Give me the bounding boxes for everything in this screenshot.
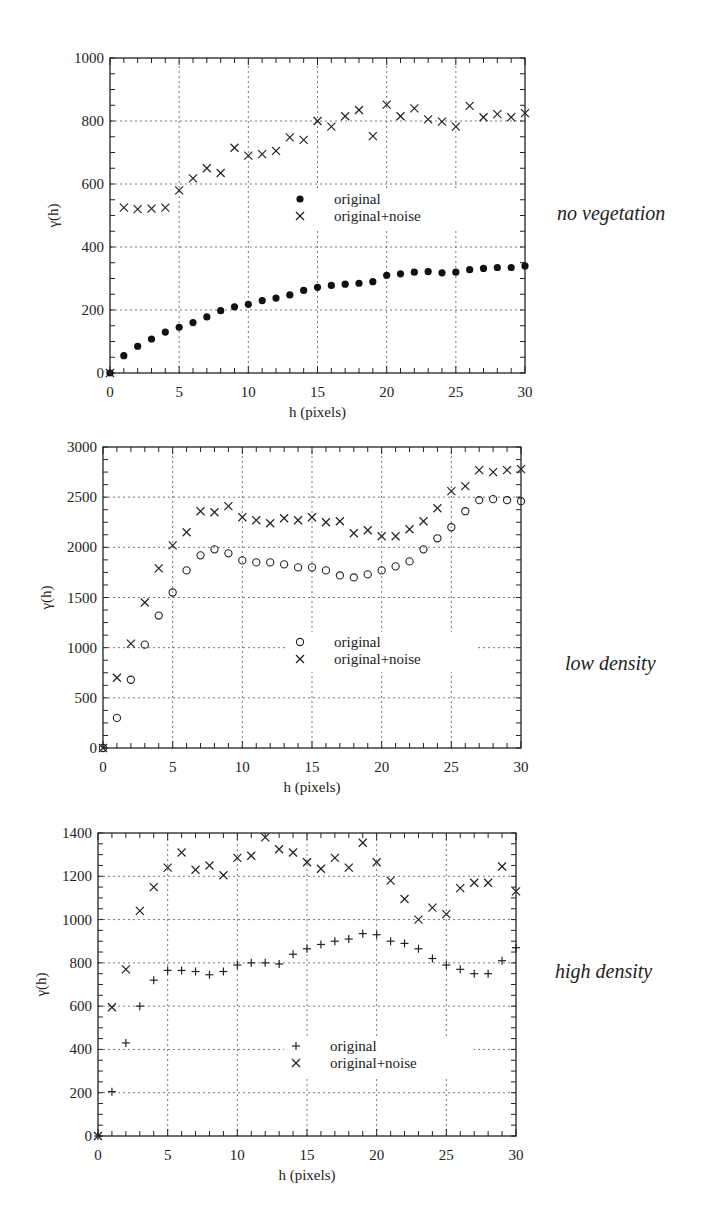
panel-label-no-vegetation: no vegetation [557, 202, 665, 225]
svg-text:original: original [330, 1038, 377, 1054]
svg-text:2500: 2500 [67, 489, 97, 505]
svg-text:1000: 1000 [74, 50, 104, 66]
svg-text:30: 30 [509, 1147, 524, 1163]
svg-text:5: 5 [169, 759, 177, 775]
svg-text:original+noise: original+noise [334, 208, 421, 224]
svg-text:10: 10 [230, 1147, 245, 1163]
tick-labels: 0510152025300200400600800100012001400 [62, 825, 524, 1163]
svg-text:400: 400 [70, 1041, 93, 1057]
svg-text:1000: 1000 [67, 640, 97, 656]
svg-text:15: 15 [310, 384, 325, 400]
x-axis-label: h (pixels) [283, 779, 340, 796]
panel-low-density: 051015202530050010001500200025003000h (p… [0, 400, 718, 810]
series-original [106, 262, 528, 376]
svg-text:1200: 1200 [62, 868, 92, 884]
svg-text:20: 20 [374, 759, 389, 775]
panel-high-density: 0510152025300200400600800100012001400h (… [0, 810, 718, 1229]
svg-text:0: 0 [106, 384, 114, 400]
svg-text:0: 0 [99, 759, 107, 775]
series-original-noise [99, 465, 525, 752]
svg-text:15: 15 [300, 1147, 315, 1163]
svg-text:200: 200 [82, 302, 105, 318]
svg-text:original+noise: original+noise [330, 1055, 417, 1071]
svg-text:5: 5 [164, 1147, 172, 1163]
svg-text:0: 0 [94, 1147, 102, 1163]
legend: originaloriginal+noise [288, 189, 478, 229]
svg-text:30: 30 [518, 384, 533, 400]
svg-text:500: 500 [75, 690, 98, 706]
svg-text:600: 600 [82, 176, 105, 192]
svg-text:20: 20 [369, 1147, 384, 1163]
svg-text:0: 0 [90, 740, 98, 756]
svg-text:600: 600 [70, 998, 93, 1014]
svg-text:1000: 1000 [62, 912, 92, 928]
svg-text:800: 800 [70, 955, 93, 971]
svg-text:10: 10 [241, 384, 256, 400]
svg-text:800: 800 [82, 113, 105, 129]
panel-no-vegetation: 05101520253002004006008001000h (pixels)γ… [0, 0, 718, 400]
y-axis-label: γ(h) [45, 203, 62, 228]
svg-text:30: 30 [514, 759, 529, 775]
tick-labels: 051015202530050010001500200025003000 [67, 439, 529, 775]
svg-text:5: 5 [175, 384, 183, 400]
svg-text:200: 200 [70, 1085, 93, 1101]
svg-text:0: 0 [97, 365, 105, 381]
legend: originaloriginal+noise [288, 632, 478, 672]
svg-text:10: 10 [235, 759, 250, 775]
y-axis-label: γ(h) [33, 972, 50, 997]
svg-text:2000: 2000 [67, 539, 97, 555]
svg-text:original: original [334, 634, 381, 650]
svg-text:original+noise: original+noise [334, 651, 421, 667]
x-axis-label: h (pixels) [278, 1167, 335, 1184]
chart-high-density: 0510152025300200400600800100012001400h (… [0, 810, 718, 1229]
grid-lines [98, 833, 516, 1136]
svg-text:400: 400 [82, 239, 105, 255]
chart-low-density: 051015202530050010001500200025003000h (p… [0, 400, 718, 810]
svg-text:25: 25 [444, 759, 459, 775]
svg-text:25: 25 [448, 384, 463, 400]
chart-no-vegetation: 05101520253002004006008001000h (pixels)γ… [0, 0, 718, 400]
svg-text:15: 15 [305, 759, 320, 775]
svg-text:0: 0 [85, 1128, 93, 1144]
svg-text:1400: 1400 [62, 825, 92, 841]
grid-lines [103, 447, 521, 748]
svg-text:original: original [334, 191, 381, 207]
panel-label-low-density: low density [565, 652, 656, 675]
svg-text:1500: 1500 [67, 590, 97, 606]
svg-text:20: 20 [379, 384, 394, 400]
svg-text:25: 25 [439, 1147, 454, 1163]
legend: originaloriginal+noise [284, 1036, 474, 1076]
series-original [99, 496, 524, 752]
panel-label-high-density: high density [555, 960, 652, 983]
svg-text:3000: 3000 [67, 439, 97, 455]
y-axis-label: γ(h) [38, 585, 55, 610]
